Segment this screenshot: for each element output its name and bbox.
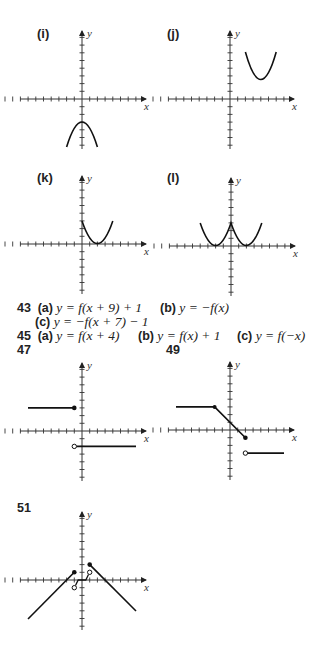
problem-label-47: 47: [17, 343, 31, 357]
graph-i: y x: [5, 27, 149, 149]
svg-text:y: y: [234, 27, 240, 39]
equation: y = −f(x): [179, 300, 229, 315]
svg-text:y: y: [86, 508, 92, 520]
svg-text:x: x: [143, 432, 149, 444]
equation: y = −f(x + 7) − 1: [54, 314, 149, 329]
svg-text:x: x: [143, 100, 149, 112]
part-label: (b): [160, 301, 176, 315]
svg-text:y: y: [86, 27, 92, 39]
panel-label-l: (l): [167, 170, 179, 185]
graph-k: y x: [5, 172, 149, 294]
question-number: 45: [17, 329, 31, 343]
equation: y = f(x + 4): [56, 328, 119, 343]
question-number: 43: [17, 301, 31, 315]
part-label: (c): [35, 315, 50, 329]
svg-text:y: y: [234, 358, 240, 370]
svg-text:x: x: [143, 245, 149, 257]
graph-47: y x: [5, 359, 149, 481]
svg-text:x: x: [143, 581, 149, 593]
svg-text:y: y: [86, 172, 92, 184]
panel-label-k: (k): [37, 170, 53, 185]
graph-49: y x: [153, 358, 297, 480]
svg-text:x: x: [292, 247, 298, 259]
answer-45-part-c: (c) y = f(−x): [237, 328, 305, 344]
part-label: (a): [38, 329, 53, 343]
answer-45-part-a: 45 (a) y = f(x + 4): [17, 328, 120, 344]
graph-l: y x: [154, 174, 298, 296]
svg-text:x: x: [291, 431, 297, 443]
problem-label-51: 51: [17, 501, 31, 515]
panel-label-j: (j): [167, 26, 179, 41]
svg-text:y: y: [86, 359, 92, 371]
part-label: (c): [237, 329, 252, 343]
equation: y = f(−x): [256, 328, 306, 343]
svg-text:x: x: [291, 100, 297, 112]
graph-j: y x: [153, 27, 297, 149]
answer-43-part-b: (b) y = −f(x): [160, 300, 229, 316]
equation: y = f(x + 9) + 1: [56, 300, 142, 315]
part-label: (b): [138, 329, 154, 343]
part-label: (a): [38, 301, 53, 315]
problem-label-49: 49: [166, 343, 180, 357]
graph-51: y x: [5, 508, 149, 630]
equation: y = f(x) + 1: [157, 328, 220, 343]
answer-45-part-b: (b) y = f(x) + 1: [138, 328, 221, 344]
svg-text:y: y: [235, 174, 241, 186]
panel-label-i: (i): [37, 26, 49, 41]
